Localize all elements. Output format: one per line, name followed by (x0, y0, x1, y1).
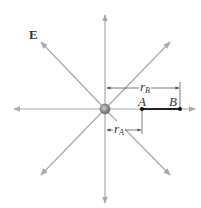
point-charge (100, 104, 110, 114)
field-line-up-left (41, 42, 105, 109)
label-rb: rB (139, 79, 151, 95)
field-line-down-left (41, 109, 105, 175)
label-ra: rA (113, 121, 125, 137)
ra-subscript: A (119, 128, 124, 137)
field-label-e: E (29, 27, 38, 43)
label-a: A (138, 94, 146, 110)
field-line-down-right (105, 109, 170, 175)
label-b: B (169, 94, 177, 110)
rb-subscript: B (145, 86, 150, 95)
point-b (178, 107, 182, 111)
